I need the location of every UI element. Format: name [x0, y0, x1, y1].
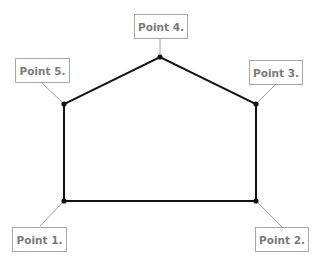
vertex-point-3 [253, 101, 258, 106]
vertex-point-2 [253, 198, 258, 203]
leader-line-point-1 [40, 201, 64, 226]
label-point-4: Point 4. [134, 14, 188, 39]
vertex-point-1 [61, 198, 66, 203]
vertex-point-4 [157, 54, 162, 59]
label-point-5: Point 5. [15, 58, 70, 83]
vertex-point-5 [61, 101, 66, 106]
label-point-2: Point 2. [255, 227, 309, 252]
leader-line-point-5 [42, 83, 64, 104]
leader-lines [40, 39, 282, 227]
leader-line-point-3 [256, 85, 275, 104]
diagram-canvas [0, 0, 320, 263]
leader-line-point-2 [256, 201, 282, 227]
vertex-dots [61, 54, 258, 203]
label-point-3: Point 3. [249, 60, 303, 85]
pentagon-outline [64, 57, 256, 201]
label-point-1: Point 1. [12, 227, 67, 252]
